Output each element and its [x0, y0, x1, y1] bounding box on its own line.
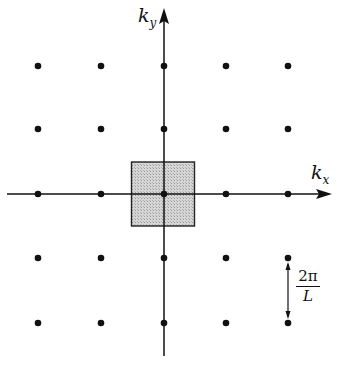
lattice-point [285, 191, 292, 198]
lattice-point [35, 126, 42, 133]
lattice-point [161, 126, 168, 133]
lattice-point [98, 320, 105, 327]
spacing-numerator: 2π [296, 268, 320, 285]
lattice-point [35, 191, 42, 198]
lattice-point [35, 63, 42, 70]
spacing-arrow-up-icon [286, 262, 291, 270]
spacing-arrow-down-icon [286, 311, 291, 319]
lattice-point [161, 320, 168, 327]
lattice-point [98, 191, 105, 198]
lattice-canvas [0, 0, 344, 369]
lattice-point [35, 255, 42, 262]
lattice-point [161, 255, 168, 262]
spacing-denominator: L [296, 288, 320, 305]
spacing-label: 2π L [296, 268, 320, 305]
lattice-point [161, 63, 168, 70]
lattice-point [223, 63, 230, 70]
lattice-point [161, 191, 168, 198]
lattice-point [98, 255, 105, 262]
lattice-point [285, 255, 292, 262]
k-space-diagram: kx ky 2π L [0, 0, 344, 369]
lattice-point [98, 126, 105, 133]
lattice-point [35, 320, 42, 327]
lattice-point [223, 191, 230, 198]
ky-label: ky [138, 4, 156, 26]
lattice-point [223, 126, 230, 133]
lattice-point [285, 63, 292, 70]
lattice-point [285, 126, 292, 133]
lattice-point [285, 320, 292, 327]
lattice-point [223, 320, 230, 327]
lattice-point [98, 63, 105, 70]
lattice-point [223, 255, 230, 262]
kx-label: kx [311, 161, 329, 183]
